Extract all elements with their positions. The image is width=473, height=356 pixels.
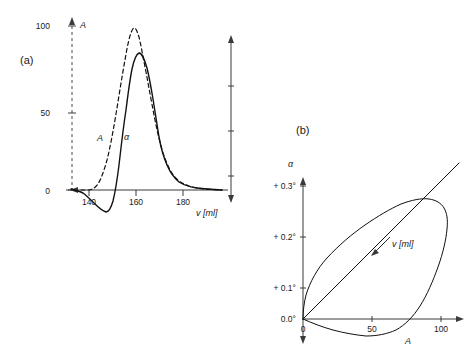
panel-a-y-tick-label-100: 100	[36, 21, 50, 31]
scientific-figure: (a) A 100 50 0 140 160 180 v [ml]	[0, 0, 473, 356]
panel-b-y-tick-label-03: + 0.3°	[273, 181, 296, 191]
panel-a-y-tick-label-50: 50	[41, 108, 51, 118]
panel-a-curve-absorbance	[81, 28, 222, 190]
panel-a-curve-label-absorbance: A	[96, 133, 103, 143]
panel-b-y-tick-label-02: + 0.2°	[273, 232, 296, 242]
panel-a-y-axis-arrowhead	[69, 17, 75, 25]
panel-b-direction-annotation-label: v [ml]	[392, 239, 414, 249]
panel-b: (b) α + 0.3° + 0.2° + 0.1° 0.0° 0 50 100	[273, 124, 464, 346]
panel-b-x-tick-label-0: 0	[301, 324, 306, 334]
panel-b-y-axis-title: α	[288, 159, 294, 169]
panel-b-x-tick-label-100: 100	[434, 324, 448, 334]
panel-a-curve-label-rotation: α	[124, 132, 130, 142]
panel-a-right-axis-bottom-arrowhead	[228, 195, 234, 203]
panel-b-y-axis-bottom-arrowhead	[300, 336, 306, 344]
panel-a-right-axis-top-arrowhead	[228, 35, 234, 43]
panel-a-y-tick-label-0: 0	[45, 186, 50, 196]
panel-b-label: (b)	[296, 124, 309, 136]
panel-b-y-tick-label-00: 0.0°	[281, 314, 296, 324]
panel-b-x-tick-label-50: 50	[367, 324, 377, 334]
panel-a-x-axis-title: v [ml]	[196, 208, 218, 218]
panel-b-x-axis-title: A	[404, 336, 411, 346]
panel-a-y-axis-title: A	[79, 20, 86, 30]
panel-b-hysteresis-loop	[303, 199, 447, 336]
figure-canvas: (a) A 100 50 0 140 160 180 v [ml]	[0, 0, 473, 356]
panel-a: (a) A 100 50 0 140 160 180 v [ml]	[20, 17, 234, 218]
panel-a-x-tick-label-160: 160	[129, 197, 143, 207]
panel-a-label: (a)	[20, 54, 33, 66]
panel-b-y-axis-arrowhead	[300, 177, 306, 185]
panel-b-y-tick-label-01: + 0.1°	[273, 283, 296, 293]
panel-b-tangent-line	[303, 163, 459, 319]
panel-b-x-axis-arrowhead	[456, 316, 464, 322]
panel-a-x-tick-label-180: 180	[176, 197, 190, 207]
